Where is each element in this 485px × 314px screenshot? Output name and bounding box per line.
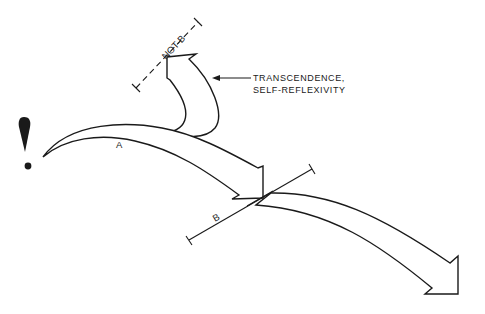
exclamation-icon <box>19 117 32 169</box>
arrow-a <box>43 125 263 199</box>
self-reflexivity-label: SELF-REFLEXIVITY <box>253 85 346 95</box>
transcendence-label: TRANSCENDENCE, <box>253 73 345 83</box>
diagram-canvas: NOT-B TRANSCENDENCE, SELF-REFLEXIVITY A … <box>0 0 485 314</box>
transcendence-arrow <box>165 54 219 137</box>
arrow-b <box>256 193 458 294</box>
label-a: A <box>116 139 123 150</box>
transcendence-pointer <box>212 75 251 81</box>
